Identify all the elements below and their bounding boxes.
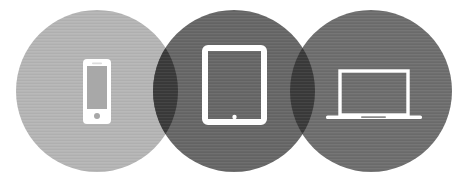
graphic-canvas — [0, 0, 467, 185]
devices-venn-diagram — [0, 0, 467, 185]
smartphone-icon — [83, 59, 111, 124]
